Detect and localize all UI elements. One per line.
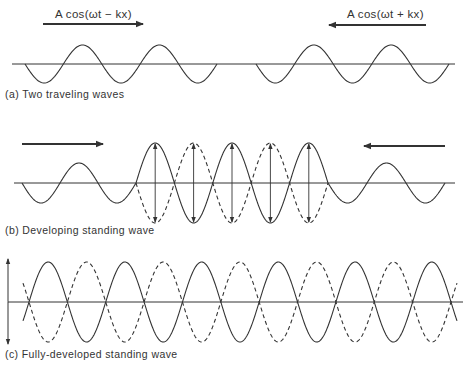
caption-panel-c: (c) Fully-developed standing wave — [5, 348, 178, 360]
backward-wave-formula-label: A cos(ωt + kx) — [347, 8, 424, 20]
standing-wave-figure — [0, 0, 466, 366]
forward-wave-formula-label: A cos(ωt − kx) — [55, 8, 132, 20]
panel-fully-developed-standing-wave — [8, 259, 463, 344]
panel-developing-standing-wave — [14, 143, 455, 223]
caption-panel-b: (b) Developing standing wave — [5, 224, 155, 236]
panel-two-traveling-waves — [12, 24, 455, 83]
caption-panel-a: (a) Two traveling waves — [5, 88, 124, 100]
